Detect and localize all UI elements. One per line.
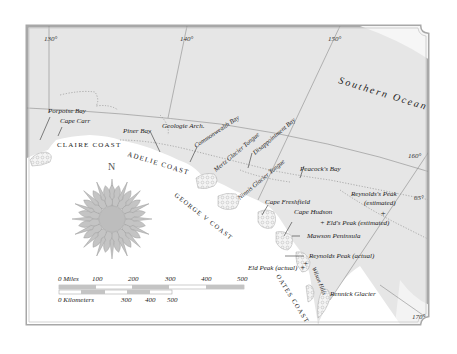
compass-north-label: N [108, 161, 115, 172]
scale-miles-tick: 100 [92, 275, 103, 283]
place-cape-carr: Cape Carr [60, 117, 90, 125]
scale-miles-label: 0 Miles [58, 275, 79, 283]
place-mawson-peninsula: Mawson Peninsula [306, 232, 361, 240]
longitude-150: 150° [328, 35, 342, 43]
place-cape-freshfield: Cape Freshfield [265, 198, 311, 206]
longitude-140: 140° [180, 35, 194, 43]
place-eld-peak-actual: Eld Peak (actual) [247, 264, 298, 272]
place-reynolds-peak-actual: Reynolds Peak (actual) [308, 252, 375, 260]
place-piner-bay: Piner Bay [122, 127, 152, 135]
scale-km-tick: 300 [120, 296, 132, 304]
scale-km-tick: 500 [167, 296, 178, 304]
place-peacocks-bay: Peacock's Bay [299, 165, 341, 173]
place-rennick-glacier: Rennick Glacier [329, 290, 376, 298]
compass-rose [72, 179, 152, 259]
peak-reynolds-estimated-note: (estimated) [364, 199, 396, 207]
scale-km-tick: 400 [145, 296, 156, 304]
longitude-160: 160° [408, 152, 422, 160]
peak-marker-icon: + [380, 208, 386, 218]
place-geologie-arch: Geologie Arch. [162, 122, 205, 130]
place-cape-hudson: Cape Hudson [294, 208, 333, 216]
peak-reynolds-estimated: Reynolds's Peak [350, 190, 398, 198]
peak-eld-estimated: + Eld's Peak (estimated) [320, 219, 390, 227]
peak-marker-icon: + [303, 259, 308, 268]
scale-km-label: 0 Kilometers [58, 296, 94, 304]
latitude-65: 65° [414, 194, 424, 202]
coast-label-claire: CLAIRE COAST [57, 141, 121, 149]
scale-miles-tick: 500 [237, 275, 248, 283]
scale-miles-tick: 200 [128, 275, 139, 283]
place-porpoise-bay: Porpoise Bay [47, 107, 87, 115]
scale-miles-tick: 300 [164, 275, 176, 283]
longitude-170: 170° [412, 313, 426, 321]
scale-miles-tick: 400 [201, 275, 212, 283]
longitude-130: 130° [44, 35, 58, 43]
antarctic-coast-map: 130° 140° 150° 160° 170° 65° Southern Oc… [0, 0, 457, 354]
